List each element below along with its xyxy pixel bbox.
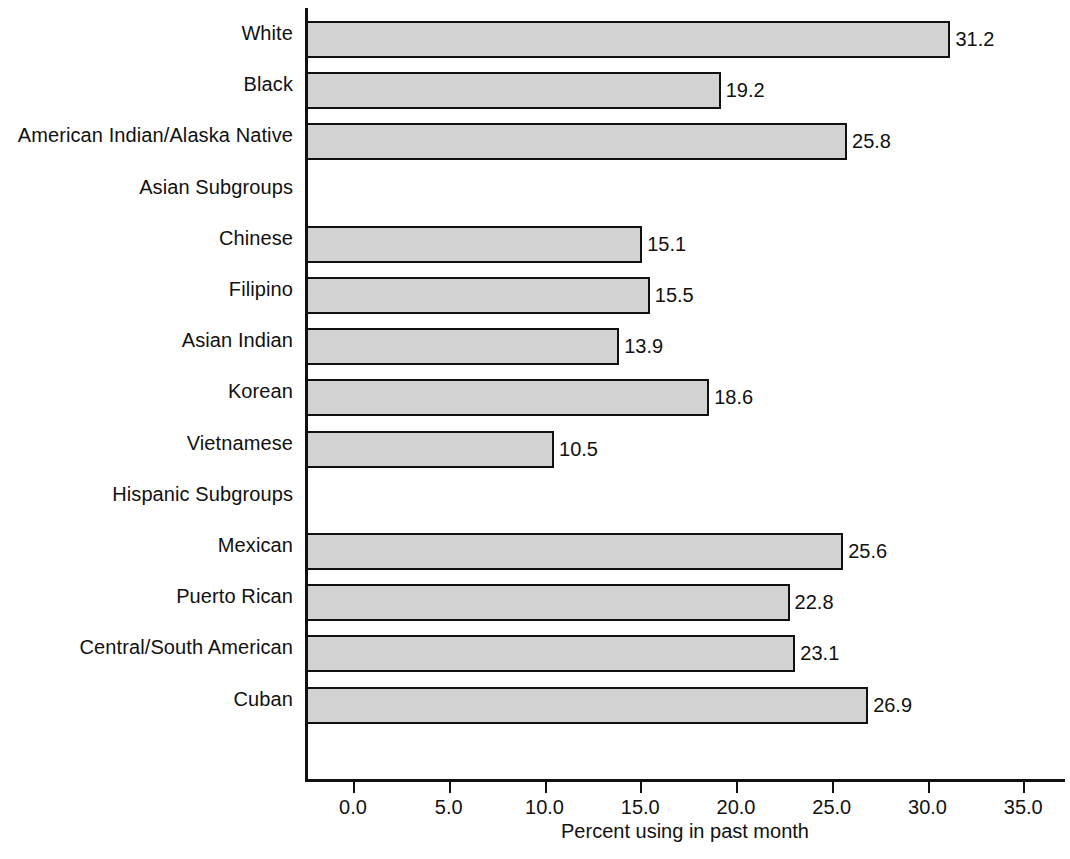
x-tick-label: 30.0 (908, 796, 947, 819)
bar-value-label: 22.8 (790, 584, 834, 621)
bar-value-label: 23.1 (795, 635, 839, 672)
x-tick-label: 5.0 (435, 796, 463, 819)
x-tick-mark (928, 782, 930, 793)
bar-chart: White31.2Black19.2American Indian/Alaska… (0, 0, 1070, 859)
x-tick-label: 25.0 (812, 796, 851, 819)
bar-container (306, 366, 709, 417)
category-label: Black (0, 59, 293, 110)
group-header-row: Hispanic Subgroups (0, 469, 1070, 520)
x-tick-label: 35.0 (1004, 796, 1043, 819)
bar (306, 584, 790, 621)
bar-row: Vietnamese10.5 (0, 418, 1070, 469)
category-label: Cuban (0, 674, 293, 725)
x-tick-mark (449, 782, 451, 793)
x-tick-label: 0.0 (339, 796, 367, 819)
group-header-row: Asian Subgroups (0, 162, 1070, 213)
bar-rows: White31.2Black19.2American Indian/Alaska… (0, 8, 1070, 779)
bar-container (306, 520, 843, 571)
x-tick-label: 20.0 (717, 796, 756, 819)
bar-container (306, 59, 721, 110)
bar (306, 123, 847, 160)
category-label: Puerto Rican (0, 571, 293, 622)
bar (306, 277, 650, 314)
bar-value-label: 19.2 (721, 72, 765, 109)
bar (306, 21, 950, 58)
x-tick-mark (1023, 782, 1025, 793)
x-axis-title: Percent using in past month (305, 820, 1065, 843)
bar-container (306, 622, 795, 673)
bar (306, 687, 868, 724)
bar-value-label: 15.1 (642, 226, 686, 263)
bar (306, 431, 554, 468)
x-tick-mark (640, 782, 642, 793)
x-tick-mark (545, 782, 547, 793)
bar-value-label: 10.5 (554, 431, 598, 468)
category-label: Central/South American (0, 622, 293, 673)
bar-value-label: 25.8 (847, 123, 891, 160)
bar-container (306, 315, 619, 366)
bar-value-label: 13.9 (619, 328, 663, 365)
bar-container (306, 213, 642, 264)
bar-container (306, 8, 950, 59)
bar-row: Chinese15.1 (0, 213, 1070, 264)
category-label: Asian Indian (0, 315, 293, 366)
bar (306, 328, 619, 365)
bar (306, 379, 709, 416)
bar (306, 635, 795, 672)
bar-container (306, 571, 790, 622)
bar-row: Filipino15.5 (0, 264, 1070, 315)
x-tick-label: 15.0 (621, 796, 660, 819)
bar (306, 72, 721, 109)
category-label: Korean (0, 366, 293, 417)
bar-value-label: 18.6 (709, 379, 753, 416)
x-tick-label: 10.0 (525, 796, 564, 819)
bar-row: Asian Indian13.9 (0, 315, 1070, 366)
x-tick-mark (832, 782, 834, 793)
bar-value-label: 31.2 (950, 21, 994, 58)
category-label: Filipino (0, 264, 293, 315)
bar (306, 226, 642, 263)
group-header-label: Asian Subgroups (0, 162, 293, 213)
bar (306, 533, 843, 570)
bar-row: Black19.2 (0, 59, 1070, 110)
category-label: American Indian/Alaska Native (0, 110, 293, 161)
bar-value-label: 26.9 (868, 687, 912, 724)
bar-row: White31.2 (0, 8, 1070, 59)
bar-row: Central/South American23.1 (0, 622, 1070, 673)
bar-container (306, 418, 554, 469)
bar-row: Korean18.6 (0, 366, 1070, 417)
bar-value-label: 25.6 (843, 533, 887, 570)
bar-row: Puerto Rican22.8 (0, 571, 1070, 622)
category-label: Mexican (0, 520, 293, 571)
bar-row: Cuban26.9 (0, 674, 1070, 725)
bar-container (306, 674, 868, 725)
bar-container (306, 110, 847, 161)
category-label: Vietnamese (0, 418, 293, 469)
bar-row: American Indian/Alaska Native25.8 (0, 110, 1070, 161)
x-tick-mark (353, 782, 355, 793)
category-label: Chinese (0, 213, 293, 264)
x-tick-mark (736, 782, 738, 793)
category-label: White (0, 8, 293, 59)
bar-value-label: 15.5 (650, 277, 694, 314)
group-header-label: Hispanic Subgroups (0, 469, 293, 520)
bar-container (306, 264, 650, 315)
bar-row: Mexican25.6 (0, 520, 1070, 571)
